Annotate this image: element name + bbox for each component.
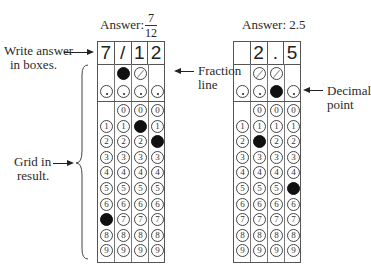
digit-bubble[interactable]: 1 bbox=[236, 120, 249, 133]
decimal-bubble[interactable] bbox=[117, 85, 130, 98]
digit-bubble[interactable]: 4 bbox=[134, 166, 147, 179]
entry-box[interactable] bbox=[234, 42, 251, 64]
decimal-bubble[interactable] bbox=[287, 85, 300, 98]
slash-bubble[interactable] bbox=[134, 67, 147, 80]
digit-bubble[interactable]: 6 bbox=[236, 198, 249, 211]
slash-bubble[interactable] bbox=[270, 67, 283, 80]
digit-bubble[interactable]: 8 bbox=[270, 229, 283, 242]
digit-bubble[interactable]: 9 bbox=[236, 244, 249, 257]
decimal-bubble[interactable] bbox=[134, 85, 147, 98]
digit-bubble[interactable]: 8 bbox=[134, 229, 147, 242]
digit-bubble[interactable]: 4 bbox=[236, 166, 249, 179]
digit-bubble[interactable]: 4 bbox=[100, 166, 113, 179]
digit-bubble[interactable]: 5 bbox=[151, 182, 164, 195]
digit-bubble[interactable]: 1 bbox=[253, 120, 266, 133]
digit-bubble[interactable]: 8 bbox=[236, 229, 249, 242]
digit-bubble[interactable]: 1 bbox=[134, 120, 147, 133]
digit-bubble[interactable]: 9 bbox=[287, 244, 300, 257]
digit-bubble[interactable]: 3 bbox=[100, 151, 113, 164]
digit-bubble[interactable]: 7 bbox=[100, 213, 113, 226]
entry-box[interactable]: . bbox=[268, 42, 285, 64]
digit-bubble[interactable]: 1 bbox=[270, 120, 283, 133]
digit-bubble[interactable]: 1 bbox=[117, 120, 130, 133]
digit-bubble[interactable]: 6 bbox=[117, 198, 130, 211]
digit-bubble[interactable]: 2 bbox=[236, 135, 249, 148]
decimal-bubble[interactable] bbox=[100, 85, 113, 98]
entry-box[interactable]: / bbox=[115, 42, 132, 64]
digit-bubble[interactable]: 7 bbox=[253, 213, 266, 226]
digit-bubble[interactable]: 9 bbox=[100, 244, 113, 257]
slash-bubble[interactable] bbox=[117, 67, 130, 80]
digit-bubble[interactable]: 6 bbox=[287, 198, 300, 211]
digit-bubble[interactable]: 7 bbox=[236, 213, 249, 226]
entry-box[interactable]: 7 bbox=[98, 42, 115, 64]
digit-bubble[interactable]: 2 bbox=[253, 135, 266, 148]
digit-bubble[interactable]: 5 bbox=[287, 182, 300, 195]
digit-bubble[interactable]: 5 bbox=[117, 182, 130, 195]
write-answer-line2: in boxes. bbox=[4, 58, 73, 72]
digit-bubble[interactable]: 3 bbox=[287, 151, 300, 164]
digit-bubble[interactable]: 5 bbox=[134, 182, 147, 195]
digit-bubble[interactable]: 0 bbox=[134, 104, 147, 117]
digit-bubble[interactable]: 8 bbox=[117, 229, 130, 242]
digit-bubble[interactable]: 9 bbox=[151, 244, 164, 257]
digit-bubble[interactable]: 6 bbox=[270, 198, 283, 211]
digit-bubble[interactable]: 5 bbox=[236, 182, 249, 195]
entry-box[interactable]: 5 bbox=[284, 42, 300, 64]
digit-bubble[interactable]: 2 bbox=[117, 135, 130, 148]
digit-bubble[interactable]: 8 bbox=[100, 229, 113, 242]
digit-bubble[interactable]: 4 bbox=[270, 166, 283, 179]
entry-box[interactable]: 2 bbox=[148, 42, 164, 64]
digit-bubble[interactable]: 3 bbox=[236, 151, 249, 164]
digit-bubble[interactable]: 1 bbox=[151, 120, 164, 133]
digit-bubble[interactable]: 0 bbox=[117, 104, 130, 117]
digit-bubble[interactable]: 0 bbox=[270, 104, 283, 117]
digit-bubble[interactable]: 5 bbox=[253, 182, 266, 195]
digit-bubble[interactable]: 6 bbox=[151, 198, 164, 211]
decimal-bubble[interactable] bbox=[270, 85, 283, 98]
decimal-bubble[interactable] bbox=[151, 85, 164, 98]
digit-bubble[interactable]: 7 bbox=[270, 213, 283, 226]
digit-bubble[interactable]: 5 bbox=[100, 182, 113, 195]
digit-bubble[interactable]: 0 bbox=[287, 104, 300, 117]
digit-bubble[interactable]: 5 bbox=[270, 182, 283, 195]
digit-bubble[interactable]: 6 bbox=[134, 198, 147, 211]
digit-bubble[interactable]: 9 bbox=[134, 244, 147, 257]
digit-bubble[interactable]: 7 bbox=[287, 213, 300, 226]
digit-bubble[interactable]: 8 bbox=[287, 229, 300, 242]
digit-bubble[interactable]: 3 bbox=[253, 151, 266, 164]
slash-bubble[interactable] bbox=[253, 67, 266, 80]
digit-bubble[interactable]: 7 bbox=[134, 213, 147, 226]
digit-bubble[interactable]: 9 bbox=[253, 244, 266, 257]
digit-bubble[interactable]: 4 bbox=[253, 166, 266, 179]
digit-bubble[interactable]: 4 bbox=[151, 166, 164, 179]
digit-bubble[interactable]: 4 bbox=[117, 166, 130, 179]
answer-fraction: 7 12 bbox=[145, 12, 157, 39]
grid-in-arrow-icon bbox=[53, 163, 68, 164]
digit-bubble[interactable]: 2 bbox=[100, 135, 113, 148]
digit-bubble[interactable]: 9 bbox=[117, 244, 130, 257]
digit-bubble[interactable]: 3 bbox=[151, 151, 164, 164]
digit-bubble[interactable]: 6 bbox=[253, 198, 266, 211]
digit-bubble[interactable]: 3 bbox=[117, 151, 130, 164]
digit-bubble[interactable]: 7 bbox=[151, 213, 164, 226]
digit-bubble[interactable]: 1 bbox=[100, 120, 113, 133]
digit-bubble[interactable]: 4 bbox=[287, 166, 300, 179]
digit-bubble[interactable]: 2 bbox=[134, 135, 147, 148]
decimal-bubble[interactable] bbox=[253, 85, 266, 98]
digit-bubble[interactable]: 8 bbox=[253, 229, 266, 242]
digit-bubble[interactable]: 3 bbox=[270, 151, 283, 164]
digit-bubble[interactable]: 0 bbox=[151, 104, 164, 117]
digit-bubble[interactable]: 0 bbox=[253, 104, 266, 117]
digit-bubble[interactable]: 1 bbox=[287, 120, 300, 133]
entry-box[interactable]: 1 bbox=[132, 42, 149, 64]
digit-bubble[interactable]: 3 bbox=[134, 151, 147, 164]
digit-bubble[interactable]: 7 bbox=[117, 213, 130, 226]
digit-bubble[interactable]: 6 bbox=[100, 198, 113, 211]
digit-bubble[interactable]: 2 bbox=[270, 135, 283, 148]
digit-bubble[interactable]: 9 bbox=[270, 244, 283, 257]
digit-bubble[interactable]: 2 bbox=[151, 135, 164, 148]
entry-box[interactable]: 2 bbox=[251, 42, 268, 64]
digit-bubble[interactable]: 8 bbox=[151, 229, 164, 242]
digit-bubble[interactable]: 2 bbox=[287, 135, 300, 148]
